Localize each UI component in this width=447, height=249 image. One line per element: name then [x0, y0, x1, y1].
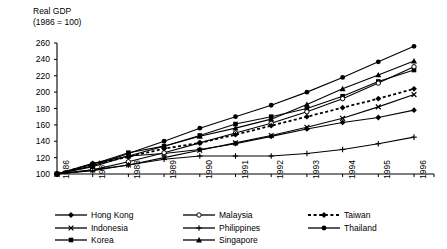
- legend-item-singapore[interactable]: Singapore: [182, 234, 307, 247]
- marker-plus-cross: [411, 134, 417, 140]
- marker-filled-square: [69, 238, 74, 243]
- legend-label: Hong Kong: [91, 210, 134, 220]
- marker-filled-diamond: [375, 115, 381, 121]
- marker-open-circle: [340, 96, 344, 100]
- marker-plus-cross: [268, 153, 274, 159]
- marker-open-circle: [197, 213, 201, 217]
- marker-plus-cross: [376, 141, 382, 147]
- legend-item-hong-kong[interactable]: Hong Kong: [54, 209, 182, 222]
- marker-filled-diamond: [411, 86, 417, 92]
- marker-filled-circle: [340, 75, 345, 80]
- marker-filled-diamond: [375, 96, 381, 102]
- marker-filled-circle: [233, 114, 238, 119]
- legend-item-indonesia[interactable]: Indonesia: [54, 222, 182, 235]
- marker-filled-circle: [412, 44, 417, 49]
- marker-filled-diamond: [411, 107, 417, 113]
- marker-open-circle: [305, 110, 309, 114]
- legend-swatch: [54, 235, 88, 245]
- marker-filled-diamond: [321, 212, 327, 218]
- legend-swatch: [307, 210, 341, 220]
- chart-container: Real GDP (1986 = 100) 100120140160180200…: [0, 0, 447, 249]
- legend-swatch: [307, 223, 341, 233]
- data-series-group: [54, 44, 417, 177]
- legend-item-korea[interactable]: Korea: [54, 234, 182, 247]
- chart-legend: Hong KongMalaysiaTaiwanIndonesiaPhilippi…: [54, 209, 444, 247]
- marker-filled-diamond: [340, 105, 346, 111]
- marker-filled-circle: [55, 172, 60, 177]
- marker-filled-circle: [197, 126, 202, 131]
- marker-plus-cross: [340, 147, 346, 153]
- legend-swatch: [182, 223, 216, 233]
- marker-filled-triangle: [411, 58, 417, 63]
- marker-filled-circle: [376, 59, 381, 64]
- legend-label: Korea: [91, 235, 114, 245]
- legend-item-malaysia[interactable]: Malaysia: [182, 209, 307, 222]
- marker-open-circle: [412, 65, 416, 69]
- marker-filled-circle: [322, 225, 327, 230]
- legend-label: Singapore: [219, 235, 258, 245]
- legend-item-thailand[interactable]: Thailand: [307, 222, 427, 235]
- legend-item-philippines[interactable]: Philippines: [182, 222, 307, 235]
- marker-filled-diamond: [197, 140, 203, 146]
- legend-swatch: [182, 235, 216, 245]
- legend-swatch: [182, 210, 216, 220]
- marker-filled-circle: [162, 139, 167, 144]
- marker-filled-circle: [126, 151, 131, 156]
- marker-filled-diamond: [304, 114, 310, 120]
- marker-filled-circle: [269, 103, 274, 108]
- legend-item-taiwan[interactable]: Taiwan: [307, 209, 427, 222]
- legend-label: Malaysia: [219, 210, 253, 220]
- marker-filled-triangle: [304, 101, 310, 106]
- marker-open-circle: [376, 81, 380, 85]
- marker-filled-circle: [305, 90, 310, 95]
- marker-plus-cross: [233, 153, 239, 159]
- marker-filled-diamond: [68, 212, 74, 218]
- legend-label: Thailand: [344, 223, 377, 233]
- marker-plus-cross: [197, 153, 203, 159]
- marker-plus-cross: [196, 225, 202, 231]
- series-philippines: [54, 134, 417, 176]
- legend-label: Philippines: [219, 223, 260, 233]
- legend-label: Taiwan: [344, 210, 370, 220]
- legend-label: Indonesia: [91, 223, 128, 233]
- marker-filled-circle: [90, 163, 95, 168]
- marker-plus-cross: [304, 151, 310, 157]
- legend-swatch: [54, 210, 88, 220]
- legend-swatch: [54, 223, 88, 233]
